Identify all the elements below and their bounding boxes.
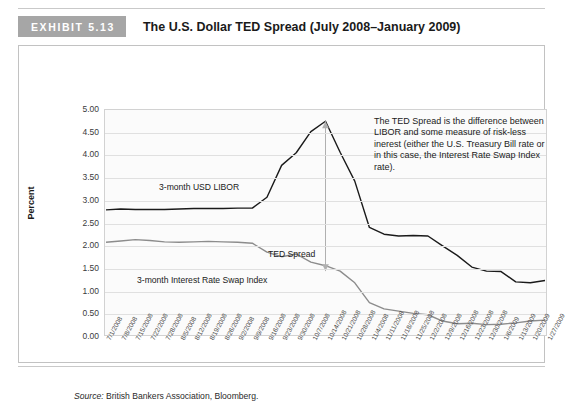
gridline (105, 201, 546, 202)
bottom-divider (18, 366, 545, 367)
x-axis-ticks: 7/1/20087/8/20087/15/20087/22/20087/28/2… (104, 338, 547, 384)
y-axis-ticks: 5.004.504.003.503.002.502.001.501.000.50… (57, 109, 99, 336)
y-axis-tick-label: 4.50 (57, 127, 99, 137)
y-axis-tick-label: 1.50 (57, 263, 99, 273)
gridline (105, 224, 546, 225)
y-axis-tick-label: 2.00 (57, 240, 99, 250)
series-label-libor: 3-month USD LIBOR (159, 182, 239, 192)
gridline (105, 246, 546, 247)
y-axis-tick-label: 3.00 (57, 195, 99, 205)
ted-spread-arrowhead-bottom (322, 264, 329, 271)
source-note: Source: British Bankers Association, Blo… (74, 391, 258, 401)
y-axis-tick-label: 0.50 (57, 308, 99, 318)
y-axis-tick-label: 3.50 (57, 172, 99, 182)
y-axis-tick-label: 2.50 (57, 218, 99, 228)
chart-frame: Percent 5.004.504.003.503.002.502.001.50… (18, 45, 545, 363)
ted-spread-explanation: The TED Spread is the difference between… (374, 116, 554, 173)
gridline (105, 292, 546, 293)
top-divider (18, 8, 545, 9)
page-title: The U.S. Dollar TED Spread (July 2008–Ja… (143, 16, 461, 37)
exhibit-header: EXHIBIT 5.13 The U.S. Dollar TED Spread … (18, 16, 460, 37)
series-label-ted-spread: TED Spread (268, 249, 315, 259)
y-axis-tick-label: 1.00 (57, 286, 99, 296)
source-text: British Bankers Association, Bloomberg. (104, 391, 259, 401)
gridline (105, 178, 546, 179)
gridline (105, 269, 546, 270)
source-prefix: Source: (74, 391, 104, 401)
y-axis-title: Percent (26, 173, 36, 233)
y-axis-tick-label: 4.00 (57, 149, 99, 159)
exhibit-number-badge: EXHIBIT 5.13 (18, 16, 126, 37)
series-label-swap-index: 3-month Interest Rate Swap Index (137, 275, 267, 285)
y-axis-tick-label: 0.00 (57, 331, 99, 341)
y-axis-tick-label: 5.00 (57, 104, 99, 114)
